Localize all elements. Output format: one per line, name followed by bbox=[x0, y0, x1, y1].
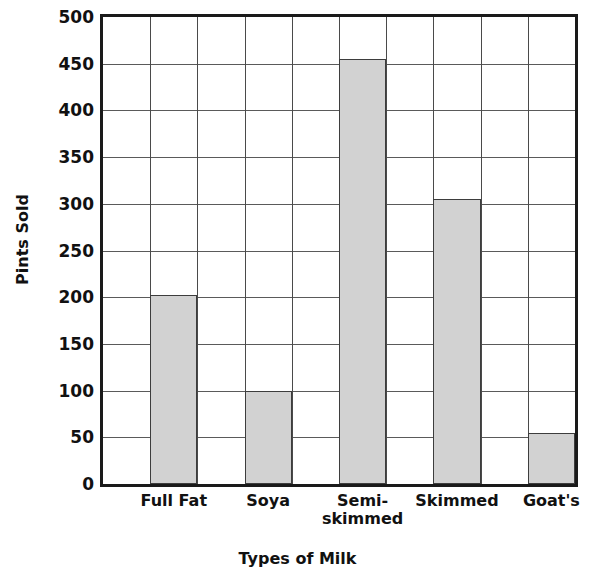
y-axis-tick-labels: 050100150200250300350400450500 bbox=[12, 14, 94, 487]
y-axis-tick-label: 100 bbox=[20, 382, 94, 399]
y-axis-tick-label: 250 bbox=[20, 242, 94, 259]
y-axis-tick-label: 450 bbox=[20, 55, 94, 72]
bar bbox=[150, 295, 197, 484]
y-axis-tick-label: 0 bbox=[20, 476, 94, 493]
bar-chart: Pints Sold 05010015020025030035040045050… bbox=[0, 0, 595, 574]
gridline-vertical bbox=[292, 17, 293, 484]
gridline-vertical bbox=[481, 17, 482, 484]
y-axis-tick-label: 200 bbox=[20, 289, 94, 306]
plot-inner bbox=[103, 17, 575, 484]
y-axis-tick-label: 50 bbox=[20, 429, 94, 446]
x-axis-title: Types of Milk bbox=[0, 549, 595, 568]
bar bbox=[339, 59, 386, 484]
y-axis-tick-label: 350 bbox=[20, 149, 94, 166]
y-axis-tick-label: 500 bbox=[20, 9, 94, 26]
gridline-vertical bbox=[197, 17, 198, 484]
gridline-vertical bbox=[386, 17, 387, 484]
x-axis-tick-label-line: skimmed bbox=[303, 510, 423, 528]
y-axis-tick-label: 150 bbox=[20, 335, 94, 352]
y-axis-tick-label: 300 bbox=[20, 195, 94, 212]
bar bbox=[433, 199, 480, 484]
plot-area bbox=[100, 14, 578, 487]
x-axis-tick-label-line: Goat's bbox=[491, 492, 595, 510]
x-axis-tick-labels: Full FatSoyaSemi-skimmedSkimmedGoat's bbox=[100, 492, 578, 548]
x-axis-tick-label: Goat's bbox=[491, 492, 595, 510]
bar bbox=[528, 433, 575, 484]
y-axis-tick-label: 400 bbox=[20, 102, 94, 119]
bar bbox=[245, 391, 292, 484]
gridline-vertical bbox=[528, 17, 529, 484]
